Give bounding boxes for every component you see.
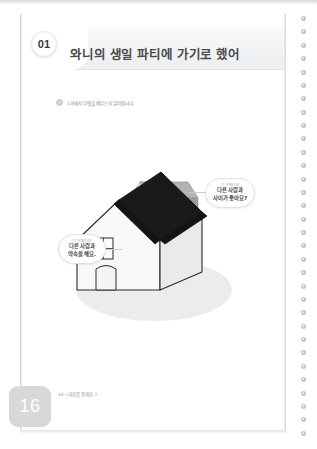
binding-dot [301,96,306,101]
circle-bullet-icon [56,99,63,106]
binding-dot [301,417,306,422]
speech-bubble-left: 이 과에서는요 다른 사람과 약속을 해요. [58,234,106,264]
speech-bubble-right: 이 과에서는요 다른 사람과 사이가 좋아요? [205,178,255,208]
page-title: 와니의 생일 파티에 가기로 했어 [70,44,270,63]
binding-dot [301,150,306,155]
page-right-edge [284,14,286,432]
binding-dot [301,217,306,222]
binding-dot [301,431,306,436]
unit-number-label: 01 [38,38,51,50]
bubble-right-line-2: 사이가 좋아요? [213,195,247,203]
binding-dot [301,136,306,141]
binding-dot [301,56,306,61]
binding-dot [301,203,306,208]
bubble-leader-left [105,249,122,250]
binding-dot [301,230,306,235]
binding-dot [301,177,306,182]
binding-dot [301,391,306,396]
binding-dot [301,377,306,382]
binding-dot [301,350,306,355]
binding-dot [301,29,306,34]
binding-dot [301,110,306,115]
binding-dot [301,163,306,168]
binding-dot [301,404,306,409]
binding-dot [301,297,306,302]
binding-dot [301,364,306,369]
binding-dot [301,257,306,262]
instruction-row: 1과에서 무엇을 배우는지 알아봅시다. [56,99,134,106]
page-bottom-edge [20,430,286,433]
binding-dot [301,83,306,88]
binding-dot [301,70,306,75]
bubble-left-line-2: 약속을 해요. [68,251,96,259]
page-number-label: 16 [19,396,40,417]
binding-dot [301,284,306,289]
binding-dot [301,123,306,128]
scan-band-top [0,0,317,4]
page-number-tab: 16 [9,386,51,427]
instruction-text: 1과에서 무엇을 배우는지 알아봅시다. [67,100,134,106]
unit-number-badge: 01 [31,31,57,57]
binding-dot [301,16,306,21]
bubble-left-line-1: 다른 사람과 [69,243,95,251]
binding-dot [301,243,306,248]
binding-dot [301,310,306,315]
binding-dot [301,190,306,195]
spiral-binding [297,16,309,436]
page-root: 01 와니의 생일 파티에 가기로 했어 1과에서 무엇을 배우는지 알아봅시다… [0,0,317,449]
binding-dot [301,270,306,275]
binding-dot [301,324,306,329]
binding-dot [301,43,306,48]
bubble-right-line-1: 다른 사람과 [217,187,243,195]
footer-text: 16 • 대화를 잘해요 2 [58,391,97,397]
binding-dot [301,337,306,342]
house-door [96,266,116,291]
